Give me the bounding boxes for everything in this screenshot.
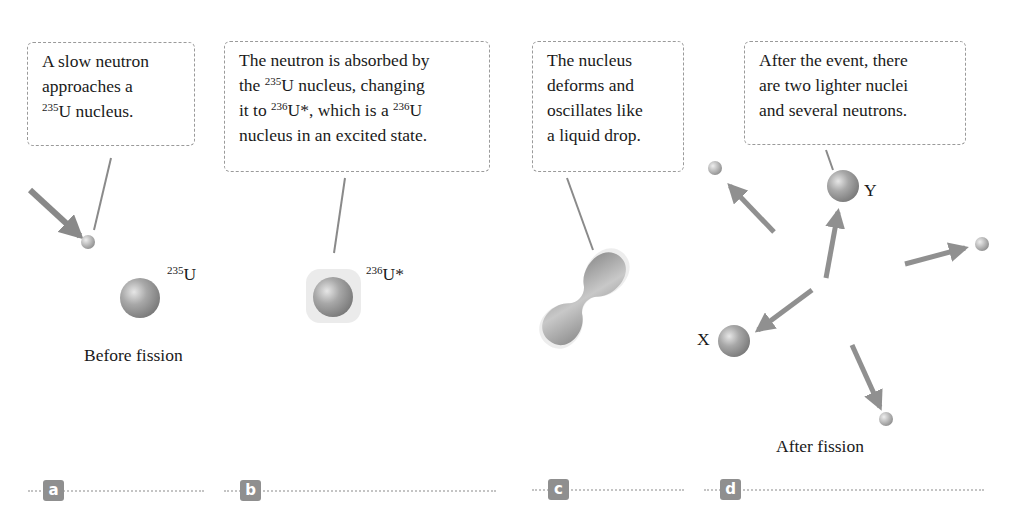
deformed-nucleus	[535, 244, 634, 352]
neutron-arrow-right	[905, 248, 965, 264]
callout-line: After the event, there	[759, 48, 955, 73]
callout-line: are two lighter nuclei	[759, 73, 955, 98]
uranium-235-nucleus	[120, 278, 160, 318]
callout-line: a liquid drop.	[547, 123, 673, 148]
neutron	[708, 161, 722, 175]
caption-before-fission: Before fission	[84, 345, 183, 366]
caption-after-fission: After fission	[776, 436, 864, 457]
callout-line: The nucleus	[547, 48, 673, 73]
incoming-neutron-arrow	[30, 190, 80, 236]
callout-panel-b: The neutron is absorbed by the 235U nucl…	[224, 41, 490, 172]
panel-tag-c: c	[548, 479, 569, 500]
panel-d-rule	[704, 489, 984, 491]
fragment-label-y: Y	[864, 180, 877, 201]
neutron-arrow-down	[852, 345, 880, 407]
mass-number: 235	[42, 101, 59, 113]
neutron	[975, 237, 989, 251]
panel-tag-d: d	[720, 479, 741, 500]
callout-line: The neutron is absorbed by	[239, 48, 479, 73]
neutron-arrow-upleft	[730, 186, 774, 232]
callout-line: oscillates like	[547, 98, 673, 123]
neutron	[81, 235, 95, 249]
panel-b-rule	[224, 490, 496, 492]
callout-line: it to 236U*, which is a 236U	[239, 98, 479, 123]
callout-line: approaches a	[42, 74, 184, 99]
callout-line: deforms and	[547, 73, 673, 98]
callout-pointer-d	[826, 150, 833, 170]
arrow-to-x	[758, 290, 812, 330]
arrow-to-y	[826, 212, 838, 278]
panel-a-artwork	[30, 158, 160, 318]
callout-pointer-a	[94, 158, 111, 230]
callout-pointer-c	[567, 178, 593, 250]
nucleus-label-u235: 235U	[167, 264, 196, 285]
callout-line: 235U nucleus.	[42, 99, 184, 124]
nucleus-label-u236-excited: 236U*	[366, 264, 404, 285]
panel-tag-b: b	[240, 480, 261, 501]
uranium-236-excited-nucleus	[313, 277, 353, 317]
panel-b-artwork	[306, 178, 361, 323]
callout-line: A slow neutron	[42, 49, 184, 74]
panel-c-artwork	[531, 178, 638, 357]
callout-panel-a: A slow neutron approaches a 235U nucleus…	[27, 42, 195, 146]
fragment-nucleus-y	[827, 170, 859, 202]
panel-tag-a: a	[43, 480, 64, 501]
callout-line: the 235U nucleus, changing	[239, 73, 479, 98]
panel-d-artwork	[708, 150, 989, 426]
callout-line: nucleus in an excited state.	[239, 123, 479, 148]
callout-panel-c: The nucleus deforms and oscillates like …	[532, 41, 684, 172]
callout-line: and several neutrons.	[759, 98, 955, 123]
fragment-label-x: X	[697, 329, 710, 350]
callout-panel-d: After the event, there are two lighter n…	[744, 41, 966, 145]
neutron	[879, 412, 893, 426]
callout-pointer-b	[334, 178, 345, 253]
fragment-nucleus-x	[718, 325, 750, 357]
